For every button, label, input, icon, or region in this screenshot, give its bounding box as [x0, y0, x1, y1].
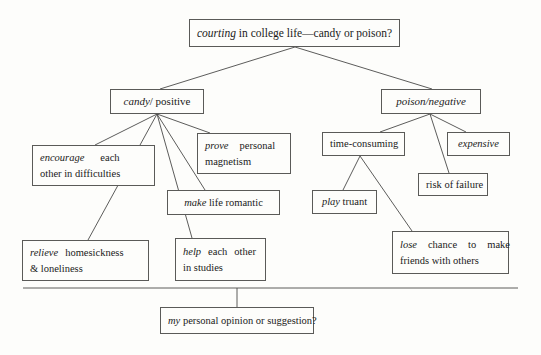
node-conclusion-opinion: my personal opinion or suggestion? — [160, 307, 314, 334]
node-encourage-line1: encourageeach — [33, 150, 154, 165]
node-relieve-line1: relievehomesickness — [23, 245, 148, 260]
node-risk-of-failure: risk of failure — [418, 173, 488, 196]
node-make-text: make life romantic — [168, 195, 279, 210]
node-encourage-italic-lead: encourage — [40, 152, 84, 163]
node-help-line2: in studies — [176, 260, 265, 275]
node-time-text: time-consuming — [323, 136, 404, 151]
connector-candy-to-help — [157, 114, 192, 238]
connector-poison-to-time — [380, 114, 430, 132]
node-play-text: play truant — [313, 194, 376, 209]
node-risk-text: risk of failure — [419, 177, 487, 192]
node-play-italic-lead: play — [322, 196, 340, 207]
node-relieve-homesickness: relievehomesickness & loneliness — [22, 240, 149, 281]
node-time-consuming: time-consuming — [322, 132, 405, 156]
node-lose-chance-friends: losechancetomake friends with others — [392, 231, 509, 274]
node-lose-line1: losechancetomake — [393, 237, 508, 252]
node-conclusion-text: my personal opinion or suggestion? — [161, 313, 313, 328]
node-candy-rest: / positive — [150, 95, 191, 107]
node-relieve-italic-lead: relieve — [30, 247, 58, 258]
node-make-life-romantic: make life romantic — [167, 190, 280, 215]
node-make-italic-lead: make — [184, 197, 206, 208]
node-encourage-line2: other in difficulties — [33, 166, 154, 181]
node-conclusion-rest: personal opinion or suggestion? — [180, 315, 316, 326]
node-expensive: expensive — [447, 132, 510, 156]
node-encourage-each-other: encourageeach other in difficulties — [32, 145, 155, 186]
node-root-text: courting in college life—candy or poison… — [190, 25, 399, 42]
node-help-line1-mid: each — [208, 246, 227, 257]
connector-candy-to-prove — [157, 114, 210, 133]
node-relieve-line1-rest: homesickness — [65, 247, 123, 258]
node-make-rest: life romantic — [206, 197, 263, 208]
node-prove-line1: provepersonal — [198, 138, 290, 153]
node-poison-text: poison/negative — [382, 94, 480, 110]
node-poison-negative: poison/negative — [381, 89, 481, 114]
node-play-truant: play truant — [312, 190, 377, 214]
connector-root-to-candy — [160, 47, 295, 89]
connector-candy-to-encourage — [95, 114, 157, 145]
node-relieve-line2: & loneliness — [23, 261, 148, 276]
node-help-each-other-studies: helpeachother in studies — [175, 238, 266, 281]
node-conclusion-italic-lead: my — [168, 315, 180, 326]
node-play-rest: truant — [340, 196, 367, 207]
node-prove-line2: magnetism — [198, 154, 290, 169]
node-lose-line1-b: to — [468, 239, 476, 250]
connector-root-to-poison — [295, 47, 432, 89]
node-root-rest: in college life—candy or poison? — [236, 27, 392, 39]
node-candy-text: candy/ positive — [111, 94, 203, 110]
node-lose-line1-a: chance — [428, 239, 457, 250]
node-prove-personal-magnetism: provepersonal magnetism — [197, 133, 291, 174]
node-candy-positive: candy/ positive — [110, 89, 204, 114]
node-prove-line1-rest: personal — [240, 140, 276, 151]
node-prove-italic-lead: prove — [205, 140, 229, 151]
node-root-topic: courting in college life—candy or poison… — [189, 19, 400, 47]
node-encourage-line1-rest: each — [100, 152, 119, 163]
node-help-line1: helpeachother — [176, 244, 265, 259]
node-lose-line1-c: make — [487, 239, 510, 250]
node-help-italic-lead: help — [183, 246, 201, 257]
node-lose-italic-lead: lose — [400, 239, 417, 250]
connector-time-to-play — [343, 156, 360, 190]
node-candy-italic-lead: candy — [124, 95, 150, 107]
connector-poison-to-expensive — [430, 114, 466, 132]
node-lose-line2: friends with others — [393, 253, 508, 268]
node-expensive-text: expensive — [448, 136, 509, 151]
mind-map-diagram: courting in college life—candy or poison… — [0, 0, 541, 355]
node-root-italic-lead: courting — [197, 27, 236, 39]
node-help-line1-rest: other — [234, 246, 256, 257]
